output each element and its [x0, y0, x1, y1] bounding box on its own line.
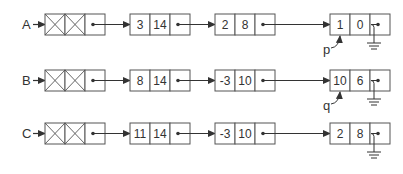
exp-value: 14 [153, 127, 167, 141]
coef-value: 10 [333, 74, 347, 88]
list-node: 28 [330, 123, 390, 144]
exp-value: 6 [357, 74, 364, 88]
exp-value: 14 [153, 18, 167, 32]
list-node: 10 [330, 14, 390, 35]
pointer-arrow-icon [331, 92, 340, 104]
list-row-a: A3142810p [22, 14, 390, 57]
pointer-arrow-icon [331, 36, 340, 48]
coef-value: 1 [337, 18, 344, 32]
coef-value: 8 [137, 74, 144, 88]
list-node: 106 [330, 70, 390, 91]
list-row-b: B814-310106q [22, 70, 390, 113]
list-head-label: B [22, 73, 31, 88]
linked-list-diagram: A3142810pB814-310106qC1114-31028 [0, 0, 403, 174]
exp-value: 8 [242, 18, 249, 32]
pointer-label: p [323, 42, 330, 57]
coef-value: 3 [137, 18, 144, 32]
exp-value: 0 [357, 18, 364, 32]
coef-value: 2 [222, 18, 229, 32]
exp-value: 10 [238, 74, 252, 88]
exp-value: 10 [238, 127, 252, 141]
coef-value: 11 [134, 127, 147, 141]
coef-value: -3 [220, 127, 231, 141]
pointer-p: p [323, 36, 340, 57]
exp-value: 14 [153, 74, 167, 88]
list-row-c: C1114-31028 [22, 123, 390, 158]
list-head-label: A [22, 17, 31, 32]
pointer-q: q [323, 92, 340, 113]
coef-value: -3 [220, 74, 231, 88]
exp-value: 8 [357, 127, 364, 141]
list-head-label: C [22, 126, 31, 141]
pointer-label: q [323, 98, 330, 113]
coef-value: 2 [337, 127, 344, 141]
